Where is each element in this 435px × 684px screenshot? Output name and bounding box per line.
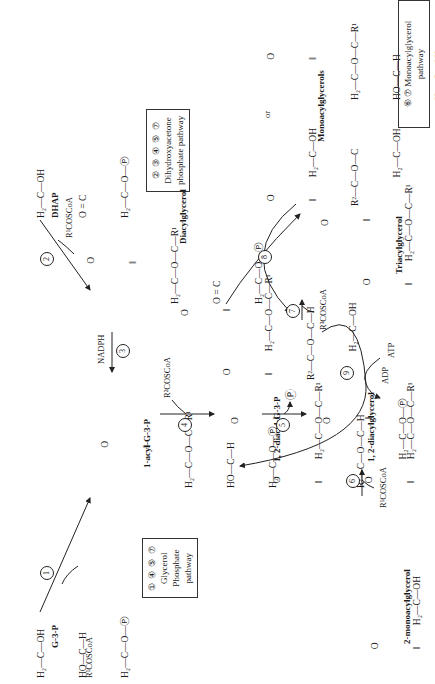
row: H₂—C—O—C—R¹ — [348, 23, 362, 100]
pathway-label: pathway — [182, 545, 194, 591]
step-7-marker: 7 — [286, 304, 300, 318]
row: H₂—C—O—Ⓟ — [118, 156, 132, 218]
reagent-nadph: NADPH — [96, 335, 106, 364]
row: O ‖ — [220, 274, 234, 380]
reagent-r3coscoa: R³COSCoA — [318, 289, 328, 330]
2-monoacylglycerol: O ‖ H₂—C—OH R²—C—O—C—H H₂—C—OH — [340, 576, 435, 654]
row: ‖ — [126, 227, 140, 304]
reagent-r1coscoa: R¹COSCoA — [84, 637, 94, 678]
dhap-pathway-box: ② ③ ④ ⑤ ⑦ Dihydroxyacetone phosphate pat… — [146, 109, 190, 192]
row: ‖ H₂—C—O—C—R¹ — [404, 382, 418, 488]
row: H₂—C—OH — [346, 274, 360, 380]
1-acyl-g3p-label: 1-acyl-G-3-P — [142, 419, 152, 468]
step-5-marker: 5 — [276, 418, 290, 432]
step-2-marker: 2 — [40, 252, 54, 266]
reagent-atp: ATP — [386, 343, 396, 358]
or-text: or — [262, 111, 272, 118]
diacylglycerol-label: Diacylglycerol — [178, 189, 188, 244]
step-8-marker: 8 — [258, 250, 272, 264]
g3p-label: G-3-P — [50, 625, 60, 648]
pathway-label: Glycerol — [158, 545, 170, 591]
row: O — [228, 382, 242, 488]
1-2-diacylglycerol-label: 1, 2-diacylglycerol — [366, 392, 376, 462]
glycerol-3-phosphate: H₂—C—OH HO—C—H H₂—C—O—Ⓟ — [6, 616, 160, 678]
2-monoacylglycerol-label: 2-monoacylglycerol — [402, 569, 412, 644]
monoacylglycerol-pathway-box: ⑥ ⑦ Monoacylglycerol pathway — [398, 0, 430, 128]
row: O — [84, 227, 98, 304]
step-9-marker: 9 — [340, 366, 354, 380]
row: O — [178, 274, 192, 380]
step-1-marker: 1 — [40, 566, 54, 580]
pathway-label: ⑥ ⑦ Monoacylglycerol pathway — [402, 7, 426, 121]
pathway-label: phosphate pathway — [174, 116, 186, 185]
row: ‖ H₂—C—OH — [410, 576, 424, 654]
step-6-marker: 6 — [346, 474, 360, 488]
dhap: H₂—C—OH O = C H₂—C—O—Ⓟ — [6, 156, 160, 218]
triacylglycerol-label: Triacylglycerol — [394, 216, 404, 274]
dhap-label: DHAP — [50, 193, 60, 219]
step-3-marker: 3 — [116, 344, 130, 358]
1-2-diacylglycerol: O O ‖ ‖ H₂—C—O—C—R¹ R²—C—O—C—H H₂—C—OH — [292, 382, 435, 488]
glycerol-phosphate-pathway-box: ① ④ ⑤ ⑦ Glycerol Phosphate pathway — [142, 538, 198, 598]
monoacylglycerol-a: O ‖ H₂—C—OH R²—C—O—C H₂—C—OH — [236, 128, 432, 206]
row: H₂—C—OH — [34, 156, 48, 218]
g3p-row: H₂—C—O—Ⓟ — [118, 616, 132, 678]
row: O — [264, 23, 278, 100]
step-4-marker: 4 — [178, 418, 192, 432]
monoacylglycerols-label: Monoacylglycerols — [316, 70, 326, 142]
pathway-label: Dihydroxyacetone — [162, 116, 174, 185]
pathway-label: Phosphate — [170, 545, 182, 591]
g3p-row: H₂—C—OH — [34, 616, 48, 678]
pathway-steps: ① ④ ⑤ ⑦ — [146, 545, 158, 591]
row: H₂—C—OH — [390, 128, 404, 206]
row: ‖ H₂—C—O—C—R¹ — [262, 274, 276, 380]
reagent-r1coscoa: R¹COSCoA — [378, 467, 388, 508]
row: O — [320, 382, 334, 488]
diacylglycerol: O O ‖ ‖ H₂—C—O—C—R¹ R²—C—O—C—H H₂—C—OH — [150, 274, 388, 380]
row: O — [368, 576, 382, 654]
row: O = C — [76, 156, 90, 218]
row: R²—C—O—C — [348, 128, 362, 206]
lipid-synthesis-diagram: H₂—C—OH HO—C—H H₂—C—O—Ⓟ G-3-P 1 R¹COSCoA… — [0, 0, 435, 684]
row: R²—C—O—C—H — [304, 274, 318, 380]
reagent-adp: ADP — [380, 367, 390, 384]
row: O — [264, 128, 278, 206]
pathway-steps: ② ③ ④ ⑤ ⑦ — [150, 116, 162, 185]
row: O — [98, 411, 112, 488]
